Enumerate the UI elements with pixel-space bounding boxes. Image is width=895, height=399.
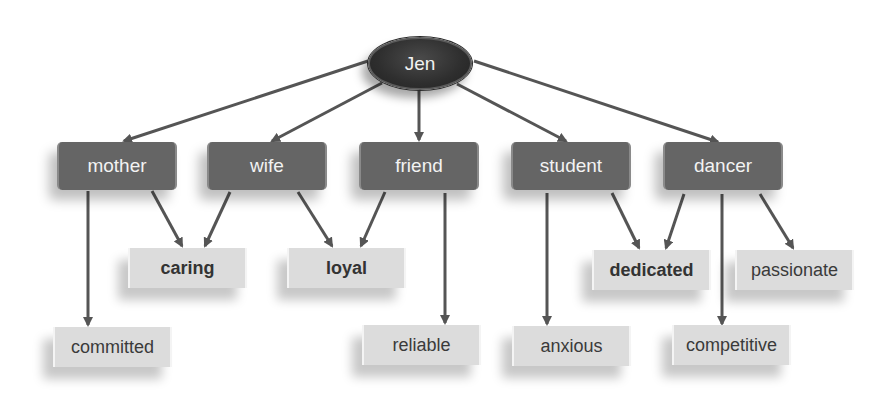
trait-node-passionate: passionate (735, 250, 854, 290)
edge-wife-loyal (298, 192, 332, 246)
trait-label: competitive (686, 335, 777, 356)
trait-node-loyal: loyal (287, 248, 406, 288)
edge-jen-mother (124, 61, 368, 141)
role-node-wife: wife (207, 142, 327, 190)
trait-node-dedicated: dedicated (592, 250, 711, 290)
edge-wife-caring (205, 192, 230, 246)
role-node-mother: mother (57, 142, 177, 190)
edge-jen-dancer (474, 61, 718, 142)
trait-label: anxious (540, 336, 602, 357)
concept-map: Jen mother wife friend student dancer ca… (0, 0, 895, 399)
edge-mother-caring (152, 191, 182, 246)
trait-node-committed: committed (53, 327, 172, 367)
edge-dancer-dedicated (666, 194, 684, 248)
trait-node-caring: caring (128, 248, 247, 288)
trait-node-reliable: reliable (362, 325, 481, 365)
trait-label: loyal (326, 258, 367, 279)
root-node-jen: Jen (368, 37, 472, 90)
role-node-dancer: dancer (663, 142, 783, 190)
edge-dancer-passionate (760, 194, 793, 248)
trait-label: caring (160, 258, 214, 279)
role-label: friend (395, 155, 443, 177)
trait-label: reliable (392, 335, 450, 356)
trait-label: passionate (751, 260, 838, 281)
role-node-friend: friend (359, 142, 479, 190)
trait-node-anxious: anxious (512, 326, 631, 366)
edge-friend-loyal (361, 192, 385, 246)
role-label: dancer (694, 155, 752, 177)
role-node-student: student (511, 142, 631, 190)
trait-label: dedicated (609, 260, 693, 281)
role-label: wife (250, 155, 284, 177)
root-label: Jen (405, 53, 436, 75)
trait-node-competitive: competitive (672, 325, 791, 365)
edge-jen-wife (272, 83, 382, 141)
role-label: student (540, 155, 602, 177)
edge-jen-student (457, 84, 566, 141)
edge-student-dedicated (612, 193, 639, 248)
role-label: mother (87, 155, 146, 177)
trait-label: committed (71, 337, 154, 358)
